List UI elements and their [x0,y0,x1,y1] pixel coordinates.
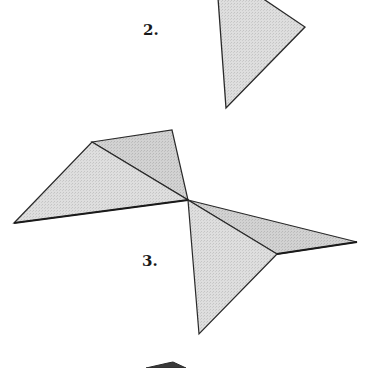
figure-4-partial [146,362,186,368]
figure-2-label: 2. [143,23,159,38]
figure-2-triangle [218,0,305,108]
diagram-canvas: 2. 3. [0,0,368,368]
figure-3-label: 3. [142,254,158,269]
figure-3-pinwheel [14,130,357,334]
geometry-figures [0,0,368,368]
